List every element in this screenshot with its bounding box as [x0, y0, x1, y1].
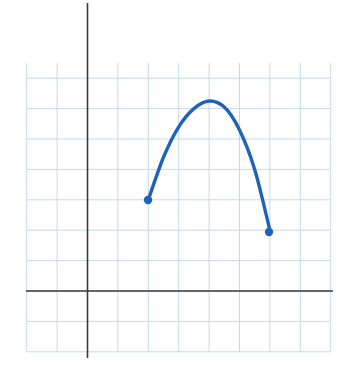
endpoint-marker-left: [144, 196, 152, 204]
graph-svg: [0, 0, 347, 366]
grid-lines: [27, 63, 331, 352]
axes: [26, 3, 333, 358]
endpoint-marker-right: [265, 228, 273, 236]
graph-paper-figure: [0, 0, 347, 366]
